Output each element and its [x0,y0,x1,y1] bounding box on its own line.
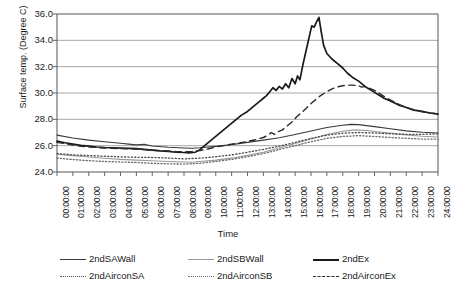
x-tick-label: 00:00:00 [61,187,71,219]
x-tick-label: 12:00:00 [251,187,261,219]
line-swatch-icon [313,271,339,280]
line-swatch-icon [60,271,86,280]
legend-label: 2ndAirconSA [89,270,146,281]
line-swatch-icon [313,254,339,263]
x-tick-label: 14:00:00 [283,187,293,219]
x-tick-label: 19:00:00 [362,187,372,219]
x-tick-label: 13:00:00 [267,187,277,219]
x-tick-label: 23:00:00 [426,187,436,219]
legend-label: 2ndAirconEx [342,270,398,281]
x-tick-label: 10:00:00 [219,187,229,219]
x-tick-label: 24:00:00 [442,187,452,219]
x-tick-label: 06:00:00 [156,187,166,219]
x-tick-label: 05:00:00 [140,187,150,219]
x-tick-label: 22:00:00 [410,187,420,219]
legend-row-2: 2ndAirconSA 2ndAirconSB 2ndAirconEx [60,267,440,284]
legend-item-2ndairconsa: 2ndAirconSA [60,270,188,281]
x-tick-label: 21:00:00 [394,187,404,219]
x-tick-label: 01:00:00 [76,187,86,219]
chart-container: Surface temp. (Degree C) 36.034.032.030.… [0,0,456,295]
x-tick-label: 08:00:00 [188,187,198,219]
legend-item-2ndex: 2ndEx [313,253,371,264]
x-axis-title: Time [0,228,456,239]
line-swatch-icon [188,271,214,280]
x-tick-label: 20:00:00 [378,187,388,219]
x-tick-label: 17:00:00 [330,187,340,219]
legend-label: 2ndSBWall [217,253,266,264]
legend-item-2ndsbwall: 2ndSBWall [188,253,313,264]
x-tick-label: 07:00:00 [172,187,182,219]
line-swatch-icon [188,254,214,263]
x-tick-label: 09:00:00 [203,187,213,219]
legend-item-2ndairconsb: 2ndAirconSB [188,270,313,281]
x-tick-label: 04:00:00 [124,187,134,219]
legend-row-1: 2ndSAWall 2ndSBWall 2ndEx [60,250,440,267]
legend-label: 2ndEx [342,253,371,264]
line-swatch-icon [60,254,86,263]
legend-label: 2ndAirconSB [217,270,274,281]
x-tick-label: 03:00:00 [108,187,118,219]
x-tick-label: 11:00:00 [235,187,245,218]
chart-legend: 2ndSAWall 2ndSBWall 2ndEx 2ndAirconSA 2n… [60,250,440,284]
x-tick-label: 16:00:00 [315,187,325,219]
legend-label: 2ndSAWall [89,253,137,264]
x-tick-label: 02:00:00 [92,187,102,219]
legend-item-2ndairconex: 2ndAirconEx [313,270,398,281]
x-tick-label: 18:00:00 [346,187,356,219]
legend-item-2ndsawall: 2ndSAWall [60,253,188,264]
x-tick-label: 15:00:00 [299,187,309,219]
